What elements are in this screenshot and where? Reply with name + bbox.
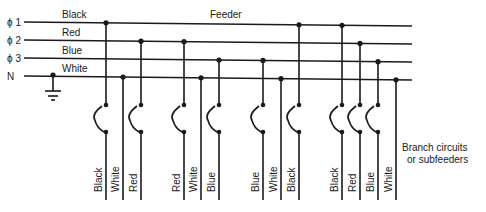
feeder-line-label-phi3: ϕ 3 (7, 53, 21, 64)
switch-icon (251, 106, 261, 132)
branch-wire-label: Black (93, 167, 104, 192)
branch-wire-label: Blue (206, 172, 217, 192)
branch-6: Blue (206, 57, 222, 200)
branch-wire-label: Red (347, 174, 358, 192)
branch-wire-label: White (383, 166, 394, 192)
switch-icon (94, 106, 104, 132)
branch-13: White (383, 77, 399, 200)
switch-icon (207, 106, 217, 132)
branch-wire-label: Red (171, 174, 182, 192)
branch-5: White (188, 75, 204, 200)
switch-icon (330, 106, 340, 132)
branch-3: Red (128, 39, 144, 200)
feeder-line-N (24, 76, 412, 80)
branch-8: White (268, 76, 284, 200)
branch-note-line1: Branch circuits (402, 142, 468, 153)
wire-color-label-N: White (62, 63, 88, 74)
wire-color-label-phi2: Red (62, 27, 80, 38)
branch-2: White (110, 74, 126, 200)
wire-color-label-phi1: Black (62, 9, 87, 20)
switch-icon (129, 106, 139, 132)
branch-wire-label: Blue (365, 172, 376, 192)
feeder-line-label-phi1: ϕ 1 (7, 17, 21, 28)
feeder-line-phi1 (24, 22, 412, 26)
branch-note-line2: or subfeeders (407, 154, 468, 165)
branch-wire-label: Blue (250, 172, 261, 192)
switch-icon (287, 106, 297, 132)
switch-icon (348, 106, 358, 132)
branch-10: Black (329, 23, 345, 200)
branch-1: Black (93, 20, 109, 200)
switch-icon (172, 106, 182, 132)
wire-color-label-phi3: Blue (62, 45, 82, 56)
branch-11: Red (347, 41, 363, 200)
switch-icon (366, 106, 376, 132)
branch-wire-label: White (110, 166, 121, 192)
branch-wire-label: Black (286, 167, 297, 192)
feeder-line-phi2 (24, 40, 412, 44)
feeder-line-label-phi2: ϕ 2 (7, 35, 21, 46)
branch-9: Black (286, 22, 302, 200)
feeder-line-label-N: N (7, 71, 14, 82)
branch-4: Red (171, 39, 187, 200)
branch-wire-label: White (188, 166, 199, 192)
branch-wire-label: Black (329, 167, 340, 192)
branch-wire-label: Red (128, 174, 139, 192)
branch-wire-label: White (268, 166, 279, 192)
feeder-branch-diagram: ϕ 1Blackϕ 2Redϕ 3BlueNWhite BlackWhiteRe… (0, 0, 486, 212)
feeder-title: Feeder (210, 9, 242, 20)
branch-circuits: BlackWhiteRedRedWhiteBlueBlueWhiteBlackB… (93, 20, 399, 200)
